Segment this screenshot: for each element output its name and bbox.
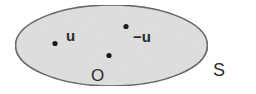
set-s-ellipse: [16, 5, 208, 86]
point-origin-label: O: [91, 66, 104, 85]
point-origin-dot: [106, 53, 111, 58]
point-u-dot: [52, 41, 57, 46]
set-s-label: S: [213, 60, 225, 80]
set-diagram: u −u O S: [0, 0, 256, 94]
point-neg-u-label: −u: [133, 28, 151, 45]
point-neg-u-dot: [123, 24, 128, 29]
point-u-label: u: [66, 27, 75, 44]
